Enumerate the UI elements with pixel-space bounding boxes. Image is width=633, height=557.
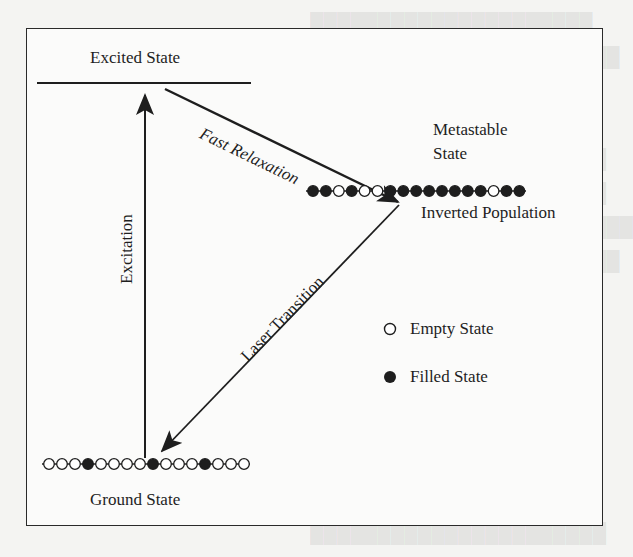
empty-state-dot: [372, 186, 383, 197]
empty-state-dot: [187, 459, 198, 470]
filled-state-dot: [346, 186, 357, 197]
metastable-state-label-line1: Metastable: [433, 120, 508, 140]
filled-state-dot: [424, 186, 435, 197]
legend-empty-circle-icon: [385, 324, 396, 335]
empty-state-dot: [334, 186, 345, 197]
legend-filled-circle-icon: [384, 371, 396, 383]
fast-relaxation-arrow: [165, 89, 398, 202]
empty-state-dot: [57, 459, 68, 470]
empty-state-dot: [174, 459, 185, 470]
filled-state-dot: [411, 186, 422, 197]
filled-state-dot: [450, 186, 461, 197]
empty-state-dot: [213, 459, 224, 470]
filled-state-dot: [83, 459, 94, 470]
empty-state-dot: [135, 459, 146, 470]
filled-state-dot: [308, 186, 319, 197]
filled-state-dot: [437, 186, 448, 197]
empty-state-dot: [161, 459, 172, 470]
empty-state-dot: [359, 186, 370, 197]
filled-state-dot: [321, 186, 332, 197]
filled-state-dot: [463, 186, 474, 197]
empty-state-dot: [226, 459, 237, 470]
empty-state-dot: [239, 459, 250, 470]
empty-state-dot: [488, 186, 499, 197]
empty-state-dot: [44, 459, 55, 470]
metastable-population-dots: [306, 186, 526, 197]
empty-state-dot: [122, 459, 133, 470]
legend-filled-state-label: Filled State: [410, 367, 488, 387]
filled-state-dot: [148, 459, 159, 470]
empty-state-dot: [109, 459, 120, 470]
excitation-label: Excitation: [117, 214, 137, 284]
legend-empty-state-label: Empty State: [410, 319, 494, 339]
filled-state-dot: [501, 186, 512, 197]
filled-state-dot: [475, 186, 486, 197]
empty-state-dot: [96, 459, 107, 470]
filled-state-dot: [200, 459, 211, 470]
ground-state-label: Ground State: [90, 490, 180, 510]
excited-state-label: Excited State: [90, 48, 180, 68]
filled-state-dot: [514, 186, 525, 197]
metastable-state-label-line2: State: [433, 144, 467, 164]
empty-state-dot: [70, 459, 81, 470]
inverted-population-label: Inverted Population: [421, 203, 556, 223]
filled-state-dot: [398, 186, 409, 197]
filled-state-dot: [385, 186, 396, 197]
ground-population-dots: [42, 459, 250, 470]
